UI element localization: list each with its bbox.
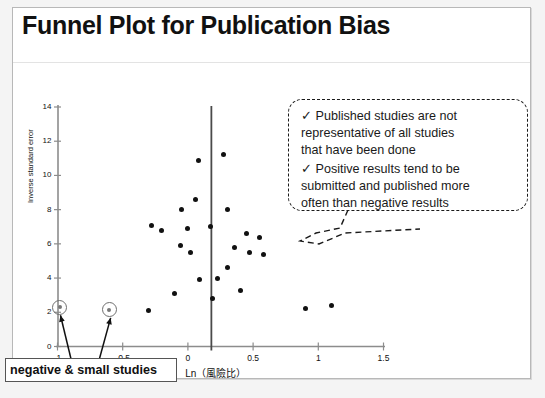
data-point	[208, 224, 213, 229]
callout-line-3: that have been done	[301, 142, 519, 159]
x-tick-label: 0	[173, 353, 203, 363]
data-point	[225, 207, 230, 212]
data-point	[149, 223, 154, 228]
x-tick-label: 1.5	[369, 353, 399, 363]
callout-box: ✓ Published studies are not representati…	[288, 99, 528, 211]
x-tick-label: 1	[303, 353, 333, 363]
data-point	[238, 288, 243, 293]
highlighted-point-core	[107, 308, 111, 312]
data-point	[159, 228, 164, 233]
data-point	[225, 265, 230, 270]
slide-background: Funnel Plot for Publication Bias 0246810…	[0, 0, 545, 398]
x-tick-label: 0.5	[238, 353, 268, 363]
data-point	[188, 250, 193, 255]
y-tick-label: 14	[30, 102, 52, 111]
data-point	[179, 207, 184, 212]
callout-line-6: often than negative results	[301, 195, 519, 212]
y-tick-label: 0	[30, 342, 52, 351]
data-point	[178, 243, 183, 248]
y-tick-label: 6	[30, 239, 52, 248]
negative-small-studies-note: negative & small studies	[5, 358, 177, 382]
y-axis-label: Inverse standard error	[26, 129, 35, 203]
y-tick-label: 2	[30, 307, 52, 316]
y-tick-label: 8	[30, 205, 52, 214]
highlighted-data-point	[52, 300, 67, 315]
x-axis-label: Ln（風險比）	[185, 365, 246, 380]
callout-line-1: ✓ Published studies are not	[301, 108, 519, 125]
note-label: negative & small studies	[10, 363, 157, 377]
callout-tail	[300, 210, 420, 244]
callout-line-2: representative of all studies	[301, 125, 519, 142]
data-point	[257, 235, 262, 240]
y-tick-label: 4	[30, 273, 52, 282]
callout-line-4: ✓ Positive results tend to be	[301, 161, 519, 178]
data-point	[247, 250, 252, 255]
callout-line-5: submitted and published more	[301, 178, 519, 195]
highlighted-point-core	[58, 305, 62, 309]
data-point	[261, 252, 266, 257]
data-point	[329, 303, 334, 308]
data-point	[196, 158, 201, 163]
